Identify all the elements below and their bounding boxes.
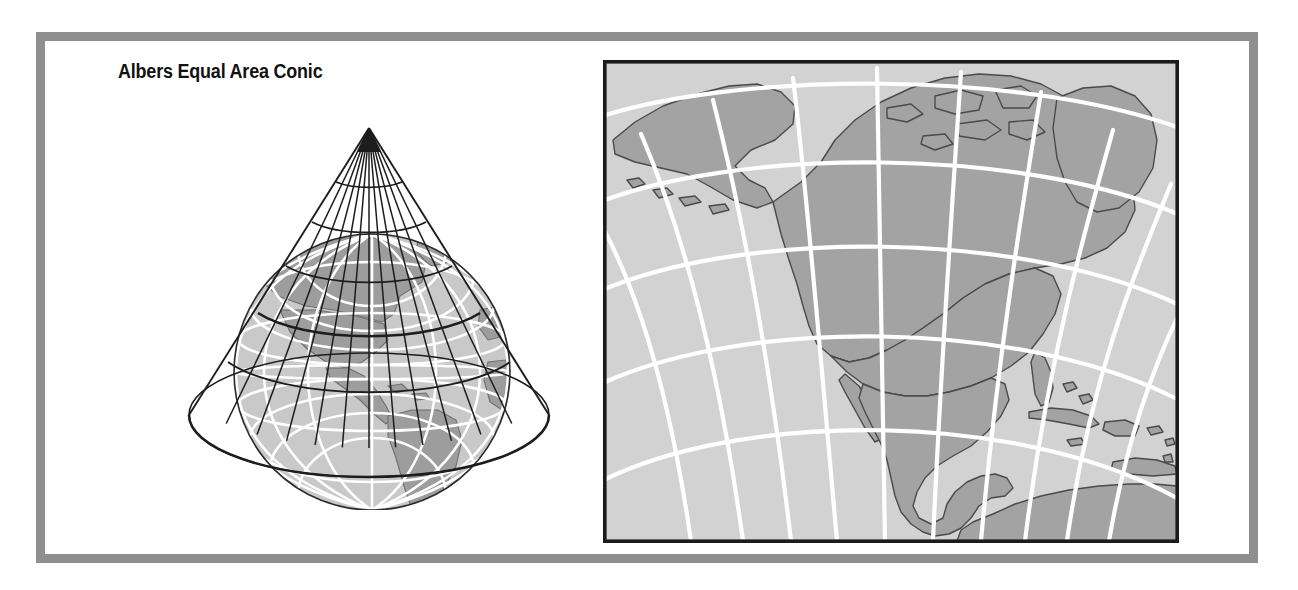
page-title: Albers Equal Area Conic [118, 60, 322, 83]
globe-cone-diagram [150, 110, 580, 510]
figure-root: Albers Equal Area Conic [0, 0, 1298, 590]
projected-map [603, 60, 1179, 543]
